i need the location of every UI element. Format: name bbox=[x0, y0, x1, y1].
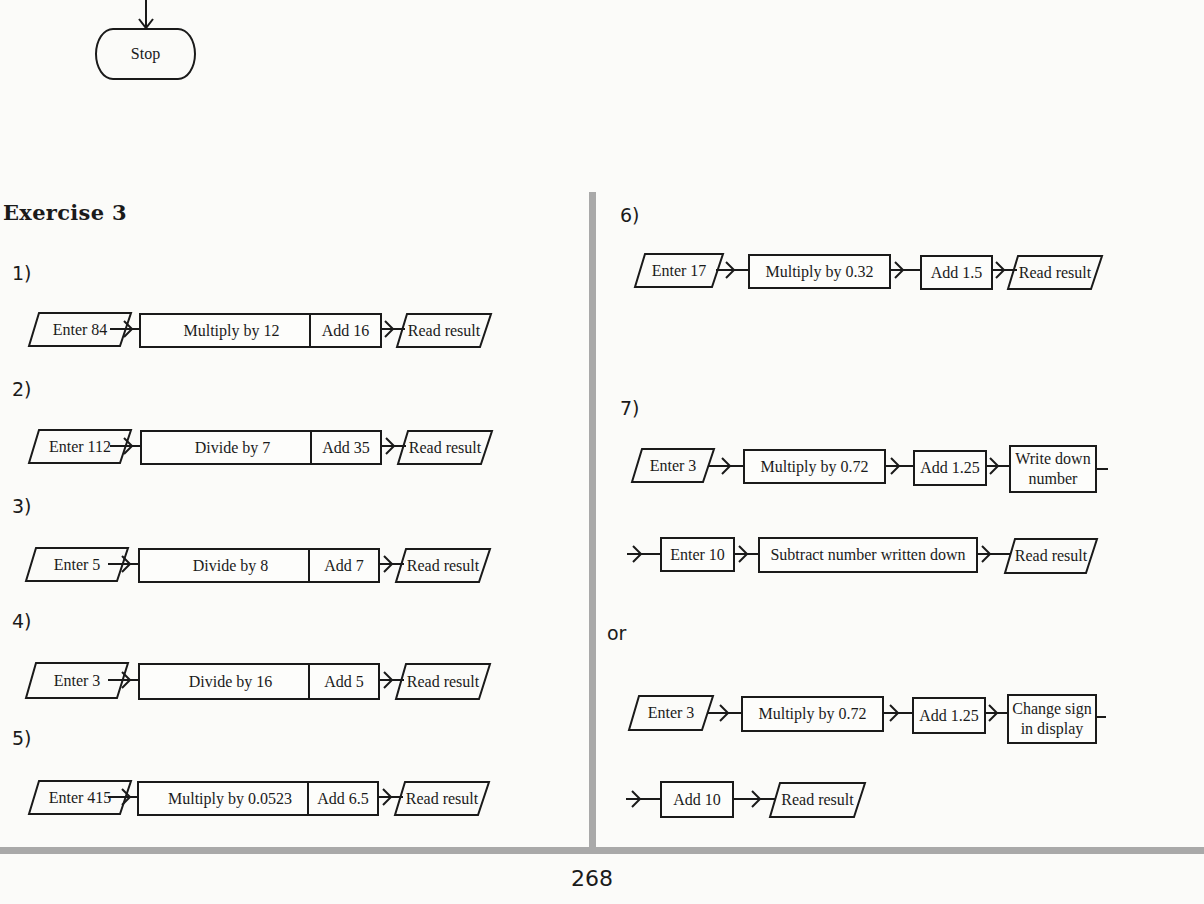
problem-number-5: 5) bbox=[12, 727, 32, 749]
process-step: Add 6.5 bbox=[307, 781, 379, 816]
change-sign-step: Change sign in display bbox=[1007, 694, 1097, 744]
problem-number-7: 7) bbox=[620, 397, 640, 419]
output-step: Read result bbox=[1007, 255, 1103, 290]
process-step: Multiply by 0.72 bbox=[743, 449, 886, 484]
process-step: Divide by 8 bbox=[138, 548, 323, 583]
step-line-1: Write down bbox=[1015, 449, 1090, 469]
process-step: Divide by 7 bbox=[140, 430, 325, 465]
process-step: Add 1.5 bbox=[920, 255, 993, 290]
flow-arrow bbox=[886, 453, 914, 479]
output-step: Read result bbox=[396, 313, 492, 348]
flow-arrow bbox=[987, 453, 1011, 479]
input-step: Enter 3 bbox=[628, 695, 714, 731]
process-step: Add 1.25 bbox=[913, 450, 987, 486]
input-step: Enter 3 bbox=[631, 448, 715, 483]
flow-arrow bbox=[708, 700, 744, 726]
process-step: Add 35 bbox=[310, 430, 382, 465]
exercise-title: Exercise 3 bbox=[3, 200, 127, 225]
process-step: Add 7 bbox=[308, 548, 380, 583]
input-step: Enter 17 bbox=[634, 253, 724, 288]
process-step: Subtract number written down bbox=[758, 537, 978, 573]
problem-number-1: 1) bbox=[12, 262, 32, 284]
flow-arrow bbox=[891, 257, 921, 283]
page-bottom-rule bbox=[0, 847, 1204, 854]
flow-arrow bbox=[626, 786, 662, 812]
step-line-2: in display bbox=[1021, 719, 1084, 739]
output-step: Read result bbox=[395, 548, 491, 583]
process-step: Multiply by 0.0523 bbox=[137, 781, 323, 816]
output-step: Read result bbox=[769, 782, 866, 818]
output-step: Read result bbox=[395, 663, 491, 700]
process-step: Add 10 bbox=[660, 781, 734, 818]
stop-label: Stop bbox=[131, 45, 160, 63]
flow-arrow bbox=[708, 453, 744, 479]
process-step: Enter 10 bbox=[660, 537, 735, 572]
flow-arrow bbox=[716, 257, 752, 283]
process-step: Add 16 bbox=[309, 313, 382, 348]
flow-arrow bbox=[627, 541, 663, 567]
output-step: Read result bbox=[397, 430, 493, 465]
problem-number-2: 2) bbox=[12, 378, 32, 400]
continuation-line bbox=[1097, 468, 1109, 472]
output-step: Read result bbox=[394, 781, 490, 816]
write-down-step: Write down number bbox=[1009, 445, 1097, 493]
process-step: Add 5 bbox=[308, 663, 380, 700]
process-step: Add 1.25 bbox=[912, 697, 986, 734]
page-number: 268 bbox=[571, 866, 613, 891]
process-step: Divide by 16 bbox=[138, 663, 323, 700]
problem-number-6: 6) bbox=[620, 204, 640, 226]
stop-terminal: Stop bbox=[95, 28, 196, 80]
flow-arrow bbox=[884, 700, 914, 726]
or-label: or bbox=[607, 622, 626, 644]
step-line-2: number bbox=[1029, 469, 1078, 489]
process-step: Multiply by 0.72 bbox=[741, 696, 884, 732]
problem-number-3: 3) bbox=[12, 495, 32, 517]
output-step: Read result bbox=[1004, 538, 1098, 574]
problem-number-4: 4) bbox=[12, 610, 32, 632]
process-step: Multiply by 0.32 bbox=[748, 254, 891, 289]
step-line-1: Change sign bbox=[1012, 699, 1092, 719]
continuation-line bbox=[1097, 716, 1107, 720]
arrow-into-stop bbox=[138, 0, 158, 30]
column-divider bbox=[589, 192, 596, 852]
